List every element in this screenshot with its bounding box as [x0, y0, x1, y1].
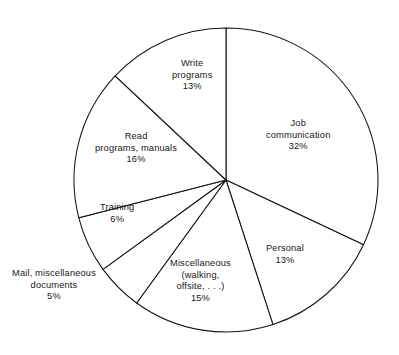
- pie-label-percent-mail-miscellaneous-documents: 5%: [12, 291, 96, 303]
- pie-label-mail-miscellaneous-documents: Mail, miscellaneousdocuments5%: [12, 268, 96, 303]
- pie-label-percent-write-programs: 13%: [172, 81, 212, 93]
- pie-label-percent-miscellaneous: 15%: [170, 293, 231, 305]
- pie-label-text-write-programs: programs: [172, 70, 212, 82]
- pie-label-percent-read-programs-manuals: 16%: [95, 154, 177, 166]
- pie-label-text-miscellaneous: offsite, . . .): [170, 281, 231, 293]
- pie-label-text-miscellaneous: Miscellaneous: [170, 258, 231, 270]
- pie-chart-figure: Jobcommunication32%Personal13%Miscellane…: [0, 0, 399, 355]
- pie-label-miscellaneous: Miscellaneous(walking,offsite, . . .)15%: [170, 258, 231, 304]
- pie-label-text-mail-miscellaneous-documents: documents: [12, 280, 96, 292]
- pie-label-read-programs-manuals: Readprograms, manuals16%: [95, 131, 177, 166]
- pie-label-text-miscellaneous: (walking,: [170, 270, 231, 282]
- pie-label-percent-training: 6%: [100, 214, 134, 226]
- pie-label-job-communication: Jobcommunication32%: [266, 118, 330, 153]
- pie-label-text-write-programs: Write: [172, 58, 212, 70]
- pie-label-text-job-communication: communication: [266, 130, 330, 142]
- pie-label-text-job-communication: Job: [266, 118, 330, 130]
- pie-label-text-training: Training: [100, 202, 134, 214]
- pie-label-write-programs: Writeprograms13%: [172, 58, 212, 93]
- pie-label-text-mail-miscellaneous-documents: Mail, miscellaneous: [12, 268, 96, 280]
- pie-label-text-read-programs-manuals: Read: [95, 131, 177, 143]
- pie-label-percent-job-communication: 32%: [266, 141, 330, 153]
- pie-label-text-personal: Personal: [266, 243, 304, 255]
- pie-label-training: Training6%: [100, 202, 134, 225]
- pie-label-personal: Personal13%: [266, 243, 304, 266]
- pie-label-percent-personal: 13%: [266, 255, 304, 267]
- pie-label-text-read-programs-manuals: programs, manuals: [95, 143, 177, 155]
